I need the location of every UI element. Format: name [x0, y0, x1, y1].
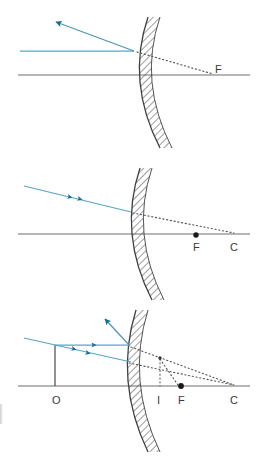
dotted-extension-to-F	[131, 347, 234, 385]
focal-point-dot	[178, 383, 184, 389]
label-focal-point-F: F	[193, 241, 200, 253]
panel-2: F C	[18, 168, 250, 300]
label-center-of-curvature-C: C	[230, 394, 238, 406]
label-center-of-curvature-C: C	[230, 241, 238, 253]
label-focal-point-F: F	[178, 394, 185, 406]
mirror-body	[139, 17, 172, 148]
virtual-extension-dotted	[133, 213, 234, 233]
incident-ray-toward-C	[24, 338, 131, 362]
label-focal-point-F: F	[215, 63, 222, 75]
dotted-extension-toward-C	[129, 363, 234, 385]
convex-mirror-ray-diagram-figure: F F C O I F	[0, 0, 257, 467]
panel-1: F	[18, 17, 250, 148]
incident-ray-toward-C	[24, 186, 131, 212]
focal-point-dot	[193, 232, 198, 237]
mirror-body	[127, 310, 160, 452]
reflected-ray	[56, 22, 134, 51]
label-image-point-I: I	[157, 394, 160, 406]
panel-3: O I F C	[18, 310, 250, 452]
label-object-point-O: O	[52, 394, 61, 406]
image-tip-dot	[158, 356, 161, 359]
reflected-ray	[105, 319, 130, 346]
